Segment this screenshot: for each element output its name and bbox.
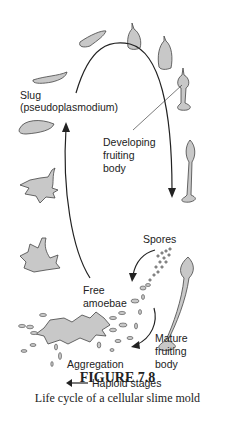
fruiting-stalk-shape	[182, 140, 196, 202]
label-free-1: Free	[83, 284, 105, 296]
figure-caption: Life cycle of a cellular slime mold	[0, 391, 235, 406]
label-mature-2: fruiting	[155, 345, 187, 357]
aggregation-mass-shape	[36, 312, 110, 344]
developing-fruiting-shape	[178, 68, 191, 110]
label-mature-1: Mature	[155, 332, 188, 344]
arrowhead-top	[168, 188, 176, 198]
label-aggregation: Aggregation	[67, 358, 124, 370]
mound-shape-2	[158, 36, 172, 69]
arrowhead-mature	[131, 341, 140, 349]
label-developing-3: body	[103, 162, 126, 174]
arrowhead-spores	[129, 273, 137, 282]
early-aggregate-shape	[20, 238, 60, 272]
arc-arrow-left	[65, 128, 90, 278]
spores-dots	[149, 248, 172, 282]
figure-number: FIGURE 7.8	[0, 370, 235, 386]
label-mature-3: body	[155, 358, 178, 370]
label-developing-2: fruiting	[103, 149, 135, 161]
label-free-2: amoebae	[83, 297, 127, 309]
developing-pointer-line	[133, 85, 182, 130]
arrowhead-left	[62, 122, 70, 132]
label-slug: Slug	[20, 89, 41, 101]
label-spores: Spores	[143, 233, 176, 245]
slug-shape-low	[19, 121, 54, 134]
tipped-aggregate-shape	[20, 168, 58, 203]
arc-arrow-spores	[133, 250, 155, 275]
slug-shape-mid	[33, 72, 67, 83]
label-slug-sub: (pseudoplasmodium)	[20, 101, 118, 113]
slug-shape-top	[80, 31, 106, 47]
label-developing-1: Developing	[103, 136, 156, 148]
